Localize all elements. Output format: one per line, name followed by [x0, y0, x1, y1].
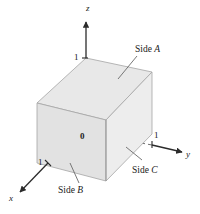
- side-c-letter: C: [151, 165, 157, 175]
- x-axis-line: [20, 163, 48, 192]
- origin-label: 0: [80, 132, 85, 141]
- x-axis-label: x: [9, 194, 13, 203]
- y-axis-line: [152, 145, 182, 152]
- side-b-label: Side B: [58, 186, 83, 196]
- figure-canvas: [0, 0, 200, 214]
- side-a-label: Side A: [135, 45, 160, 55]
- side-b-letter: B: [77, 185, 83, 195]
- side-a-prefix: Side: [135, 44, 154, 54]
- side-b-prefix: Side: [58, 185, 77, 195]
- x-axis-tick-label: 1: [38, 158, 43, 167]
- side-c-label: Side C: [132, 166, 158, 176]
- z-axis-tick-label: 1: [74, 53, 79, 62]
- side-c-prefix: Side: [132, 165, 151, 175]
- y-axis-tick-label: 1: [154, 131, 159, 140]
- figure-3d-cube-axes: z y x 1 1 1 0 Side A Side B Side C: [0, 0, 200, 214]
- side-a-letter: A: [154, 44, 160, 54]
- z-axis-label: z: [86, 4, 90, 13]
- y-axis-label: y: [186, 150, 190, 159]
